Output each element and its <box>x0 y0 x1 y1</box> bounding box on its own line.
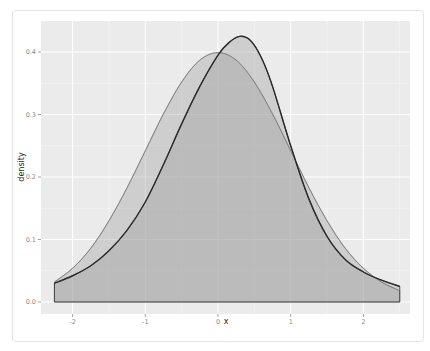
y-tick-label: 0.2 <box>26 173 36 181</box>
x-tick-label: 1 <box>289 318 293 326</box>
x-axis: -2-1012 <box>69 314 365 326</box>
density-chart: -2-1012 0.00.10.20.30.4 x density <box>0 0 430 351</box>
y-tick-label: 0.1 <box>26 236 36 244</box>
x-tick-label: 0 <box>216 318 220 326</box>
y-tick-label: 0.3 <box>26 111 36 119</box>
y-axis: 0.00.10.20.30.4 <box>26 48 41 306</box>
y-axis-title: density <box>17 152 26 182</box>
x-tick-label: -2 <box>69 318 75 326</box>
x-axis-title: x <box>224 317 229 326</box>
x-tick-label: -1 <box>142 318 148 326</box>
x-tick-label: 2 <box>361 318 365 326</box>
y-tick-label: 0.0 <box>26 298 36 306</box>
y-tick-label: 0.4 <box>26 48 36 56</box>
